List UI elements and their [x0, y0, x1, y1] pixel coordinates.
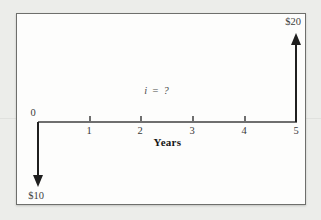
- year-tick-label-1: 1: [79, 125, 99, 137]
- year-tick-4: [244, 116, 246, 121]
- year-tick-3: [192, 116, 194, 121]
- cash-outflow-label: $10: [20, 190, 52, 202]
- outflow-arrow-shaft: [37, 122, 39, 177]
- interest-rate-annotation: i = ?: [127, 84, 187, 97]
- year-tick-1: [89, 116, 91, 121]
- year-tick-label-4: 4: [234, 125, 254, 137]
- inflow-arrowhead-icon: [291, 33, 301, 45]
- time-axis-line: [38, 121, 297, 123]
- outflow-arrowhead-icon: [33, 175, 43, 187]
- cash-inflow-label: $20: [277, 16, 309, 28]
- figure-panel: 0 1 2 3 4 5 Years i = ? $20 $10: [16, 13, 306, 205]
- year-tick-label-5: 5: [286, 125, 306, 137]
- axis-title: Years: [137, 136, 198, 149]
- page-background: 0 1 2 3 4 5 Years i = ? $20 $10: [0, 0, 321, 220]
- year-tick-2: [140, 116, 142, 121]
- inflow-arrow-shaft: [295, 42, 297, 122]
- origin-label: 0: [25, 107, 41, 119]
